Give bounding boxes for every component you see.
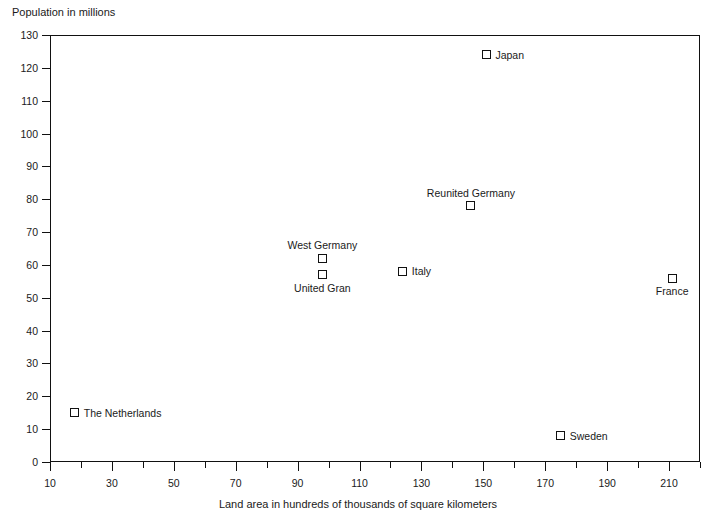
- x-axis-tick: [607, 462, 608, 471]
- y-axis-tick-label: 90: [0, 161, 38, 172]
- data-point-label: France: [656, 286, 689, 297]
- y-axis-title: Population in millions: [12, 6, 115, 18]
- y-axis-tick: [42, 101, 51, 102]
- data-point-marker: [318, 254, 327, 263]
- data-point-label: Italy: [412, 266, 431, 277]
- y-axis-tick-label: 0: [0, 457, 38, 468]
- y-axis-tick: [42, 265, 51, 266]
- x-axis-tick: [669, 462, 670, 471]
- y-axis-tick: [42, 166, 51, 167]
- data-point-label: Sweden: [570, 430, 608, 441]
- y-axis-tick-label: 70: [0, 227, 38, 238]
- x-axis-minor-tick: [329, 462, 330, 468]
- y-axis-tick: [42, 298, 51, 299]
- plot-area: [50, 35, 700, 462]
- data-point-label: The Netherlands: [84, 407, 162, 418]
- data-point-label: United Gran: [294, 283, 351, 294]
- y-axis-tick: [42, 331, 51, 332]
- y-axis-tick-label: 20: [0, 391, 38, 402]
- x-axis-tick: [112, 462, 113, 471]
- x-axis-tick-label: 210: [649, 478, 689, 489]
- data-point-marker: [668, 274, 677, 283]
- scatter-chart: Population in millions 01020304050607080…: [0, 0, 716, 519]
- x-axis-tick: [298, 462, 299, 471]
- x-axis-minor-tick: [638, 462, 639, 468]
- data-point-label: West Germany: [287, 240, 357, 251]
- y-axis-tick: [42, 363, 51, 364]
- data-point-marker: [556, 431, 565, 440]
- y-axis-tick-label: 100: [0, 129, 38, 140]
- y-axis-tick: [42, 199, 51, 200]
- x-axis-minor-tick: [514, 462, 515, 468]
- x-axis-minor-tick: [205, 462, 206, 468]
- x-axis-minor-tick: [390, 462, 391, 468]
- y-axis-tick-label: 30: [0, 358, 38, 369]
- y-axis-tick: [42, 232, 51, 233]
- x-axis-minor-tick: [452, 462, 453, 468]
- x-axis-tick-label: 10: [30, 478, 70, 489]
- x-axis-minor-tick: [81, 462, 82, 468]
- y-axis-tick-label: 60: [0, 260, 38, 271]
- x-axis-minor-tick: [700, 462, 701, 468]
- x-axis-title: Land area in hundreds of thousands of sq…: [0, 498, 716, 510]
- y-axis-tick-label: 80: [0, 194, 38, 205]
- x-axis-tick-label: 110: [340, 478, 380, 489]
- data-point-marker: [70, 408, 79, 417]
- x-axis-tick: [174, 462, 175, 471]
- y-axis-tick-label: 130: [0, 30, 38, 41]
- y-axis-tick-label: 110: [0, 96, 38, 107]
- x-axis-tick-label: 90: [278, 478, 318, 489]
- x-axis-minor-tick: [143, 462, 144, 468]
- x-axis-tick: [545, 462, 546, 471]
- x-axis-tick-label: 30: [92, 478, 132, 489]
- x-axis-tick-label: 50: [154, 478, 194, 489]
- x-axis-tick-label: 190: [587, 478, 627, 489]
- x-axis-tick-label: 170: [525, 478, 565, 489]
- x-axis-tick: [421, 462, 422, 471]
- data-point-marker: [482, 50, 491, 59]
- y-axis-tick-label: 50: [0, 293, 38, 304]
- y-axis-tick: [42, 396, 51, 397]
- y-axis-tick-label: 120: [0, 63, 38, 74]
- y-axis-tick: [42, 134, 51, 135]
- y-axis-tick: [42, 35, 51, 36]
- y-axis-tick: [42, 68, 51, 69]
- data-point-marker: [318, 270, 327, 279]
- y-axis-tick-label: 40: [0, 326, 38, 337]
- x-axis-minor-tick: [267, 462, 268, 468]
- x-axis-tick-label: 130: [401, 478, 441, 489]
- x-axis-tick-label: 70: [216, 478, 256, 489]
- x-axis-tick: [483, 462, 484, 471]
- data-point-label: Reunited Germany: [427, 187, 515, 198]
- x-axis-minor-tick: [576, 462, 577, 468]
- data-point-marker: [398, 267, 407, 276]
- x-axis-tick: [360, 462, 361, 471]
- y-axis-tick: [42, 429, 51, 430]
- x-axis-tick: [50, 462, 51, 471]
- x-axis-tick-label: 150: [463, 478, 503, 489]
- x-axis-tick: [236, 462, 237, 471]
- data-point-label: Japan: [495, 49, 524, 60]
- data-point-marker: [466, 201, 475, 210]
- y-axis-tick-label: 10: [0, 424, 38, 435]
